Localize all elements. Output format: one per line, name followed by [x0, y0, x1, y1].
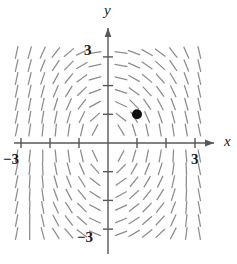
field-segment — [172, 111, 175, 124]
field-segment — [68, 149, 70, 162]
point-marker-initial-condition — [132, 109, 142, 119]
field-segment — [65, 215, 73, 225]
field-segment — [198, 98, 201, 111]
field-segment — [186, 188, 187, 201]
field-segment — [142, 62, 153, 69]
field-segment — [28, 85, 31, 98]
field-segment — [198, 111, 201, 124]
field-segment — [29, 175, 30, 188]
field-segment — [42, 124, 43, 137]
field-segment — [142, 216, 152, 225]
field-segment — [186, 201, 187, 214]
field-segment — [42, 201, 44, 214]
field-segment — [129, 204, 139, 212]
field-segment — [198, 85, 201, 98]
field-segment — [15, 59, 18, 72]
field-segment — [41, 72, 45, 84]
field-segment — [15, 111, 18, 124]
field-segment — [65, 202, 72, 213]
field-segment — [115, 218, 127, 223]
field-segment — [185, 227, 187, 240]
field-segment — [146, 124, 149, 137]
field-segment — [28, 46, 32, 58]
field-segment — [89, 218, 101, 223]
field-segment — [66, 98, 71, 110]
field-segment — [89, 191, 100, 198]
field-segment — [170, 73, 177, 84]
field-segment — [170, 85, 176, 97]
field-segment — [42, 188, 44, 201]
field-segment — [143, 190, 151, 200]
field-segment — [145, 111, 150, 123]
field-segment — [29, 162, 30, 175]
field-segment — [77, 216, 87, 224]
field-segment — [28, 72, 31, 85]
field-segment — [65, 229, 74, 239]
field-segment — [115, 101, 127, 107]
field-segment — [184, 47, 189, 59]
field-segment — [155, 229, 164, 238]
field-segment — [172, 175, 175, 188]
field-segment — [41, 85, 44, 98]
field-segment — [115, 89, 127, 93]
field-segment — [80, 124, 83, 137]
field-segment — [156, 86, 164, 97]
field-segment — [76, 62, 87, 69]
field-segment — [92, 124, 98, 135]
field-segment — [169, 47, 177, 57]
field-segment — [144, 99, 151, 110]
field-segment — [41, 98, 44, 111]
field-segment — [42, 111, 44, 124]
field-segment — [92, 150, 98, 162]
field-segment — [173, 149, 174, 162]
field-segment — [15, 124, 18, 137]
field-segment — [143, 203, 152, 212]
field-segment — [67, 111, 71, 123]
field-segment — [156, 74, 165, 84]
field-segment — [77, 75, 88, 83]
field-segment — [89, 205, 100, 211]
field-segment — [130, 177, 138, 187]
field-segment — [184, 59, 189, 71]
field-segment — [89, 89, 101, 94]
field-segment — [128, 75, 139, 81]
field-segment — [28, 98, 31, 111]
field-segment — [186, 149, 187, 162]
field-segment — [52, 228, 59, 239]
field-segment — [142, 74, 152, 82]
field-segment — [29, 188, 30, 201]
y-axis-arrowhead — [105, 28, 112, 37]
field-segment — [15, 85, 18, 98]
field-segment — [40, 47, 45, 59]
field-segment — [155, 61, 165, 70]
field-segment — [42, 175, 43, 188]
field-segment — [156, 202, 164, 212]
field-segment — [15, 72, 18, 85]
field-segment — [146, 150, 149, 163]
field-segment — [116, 178, 127, 185]
x-tick-label-positive-three: 3 — [191, 152, 199, 167]
field-segment — [198, 124, 201, 137]
field-segment — [77, 87, 86, 96]
field-segment — [55, 124, 56, 137]
field-segment — [15, 214, 17, 227]
field-segment — [128, 63, 140, 68]
x-tick-label-negative-three: −3 — [3, 152, 19, 167]
field-segment — [91, 164, 100, 174]
plot-canvas — [0, 0, 237, 264]
x-axis-arrowhead — [205, 140, 214, 147]
data-points — [132, 109, 142, 119]
field-segment — [172, 162, 174, 175]
field-segment — [186, 162, 187, 175]
field-segment — [77, 203, 86, 212]
field-segment — [198, 188, 200, 201]
field-segment — [129, 190, 138, 199]
field-segment — [53, 202, 58, 214]
field-segment — [171, 188, 175, 200]
field-segment — [64, 61, 73, 70]
field-segment — [78, 99, 86, 109]
field-segment — [52, 60, 59, 71]
field-segment — [52, 47, 60, 57]
field-segment — [115, 64, 128, 66]
field-segment — [80, 150, 83, 163]
